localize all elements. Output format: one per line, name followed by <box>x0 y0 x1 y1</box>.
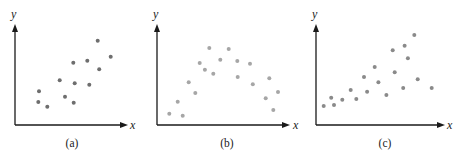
data-point <box>406 56 410 60</box>
data-point <box>203 68 207 72</box>
panel-caption: (c) <box>379 137 392 150</box>
y-axis-label: y <box>311 7 318 21</box>
data-point <box>412 33 416 37</box>
data-point <box>251 82 255 86</box>
data-point <box>276 90 280 94</box>
data-point <box>97 67 101 71</box>
panel-caption: (a) <box>66 137 79 150</box>
data-point <box>187 80 191 84</box>
data-points <box>167 46 280 118</box>
data-point <box>71 61 75 65</box>
data-point <box>264 96 268 100</box>
data-point <box>181 114 185 118</box>
data-point <box>248 62 252 66</box>
data-point <box>340 98 344 102</box>
data-point <box>329 96 333 100</box>
data-points <box>36 39 112 109</box>
data-point <box>227 47 231 51</box>
data-point <box>271 108 275 112</box>
data-point <box>218 58 222 62</box>
data-point <box>109 55 113 59</box>
data-point <box>391 48 395 52</box>
data-point <box>193 91 197 95</box>
data-point <box>167 112 171 116</box>
data-point <box>322 104 326 108</box>
panel-b: y x (b) <box>152 7 299 150</box>
y-axis-label: y <box>10 7 17 21</box>
data-point <box>73 81 77 85</box>
x-axis-label: x <box>292 118 299 132</box>
x-axis-arrow-icon <box>282 122 290 128</box>
x-axis-arrow-icon <box>437 122 445 128</box>
panel-caption: (b) <box>220 137 234 150</box>
data-point <box>37 89 41 93</box>
data-point <box>45 105 49 109</box>
data-point <box>401 86 405 90</box>
y-axis-arrow-icon <box>313 24 319 32</box>
x-axis-arrow-icon <box>120 122 128 128</box>
x-axis-label: x <box>129 118 136 132</box>
x-axis-label: x <box>446 118 453 132</box>
data-point <box>376 80 380 84</box>
data-point <box>207 46 211 50</box>
data-point <box>58 78 62 82</box>
scatter-figure: y x (a) y x (b) y x (c) <box>0 0 461 158</box>
data-point <box>85 59 89 63</box>
data-point <box>362 75 366 79</box>
y-axis-arrow-icon <box>12 24 18 32</box>
data-points <box>322 33 434 108</box>
data-point <box>373 65 377 69</box>
y-axis-label: y <box>152 7 159 21</box>
data-point <box>235 59 239 63</box>
data-point <box>63 95 67 99</box>
data-point <box>36 100 40 104</box>
data-point <box>198 61 202 65</box>
data-point <box>211 72 215 76</box>
data-point <box>354 97 358 101</box>
data-point <box>403 44 407 48</box>
data-point <box>430 86 434 90</box>
data-point <box>176 100 180 104</box>
data-point <box>384 93 388 97</box>
data-point <box>96 39 100 43</box>
y-axis-arrow-icon <box>154 24 160 32</box>
data-point <box>349 88 353 92</box>
data-point <box>416 77 420 81</box>
data-point <box>236 75 240 79</box>
data-point <box>332 103 336 107</box>
data-point <box>87 83 91 87</box>
data-point <box>365 90 369 94</box>
panel-a: y x (a) <box>10 7 136 150</box>
panel-c: y x (c) <box>311 7 453 150</box>
data-point <box>267 76 271 80</box>
data-point <box>72 101 76 105</box>
data-point <box>393 70 397 74</box>
